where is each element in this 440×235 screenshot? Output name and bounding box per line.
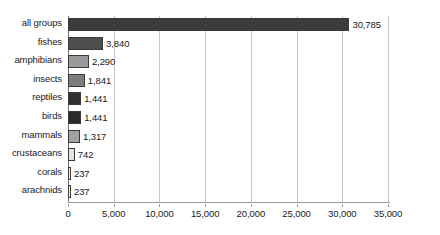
bar-row: 2,290 [68, 53, 388, 72]
x-tick-label: 15,000 [191, 208, 219, 219]
bar [68, 167, 71, 180]
bar-value-label: 742 [78, 148, 94, 161]
x-axis-tick-labels: 05,00010,00015,00020,00025,00030,00035,0… [0, 204, 440, 222]
plot-area: 30,7853,8402,2901,8411,4411,4411,3177422… [68, 16, 388, 202]
bar-value-label: 1,441 [84, 111, 107, 124]
x-tick-mark [342, 204, 343, 207]
category-label: arachnids [0, 185, 62, 195]
bar-value-label: 1,317 [83, 130, 106, 143]
bar-value-label: 2,290 [92, 55, 115, 68]
x-tick-mark [114, 204, 115, 207]
x-tick-label: 20,000 [237, 208, 265, 219]
x-tick-mark [205, 204, 206, 207]
x-tick-label: 10,000 [145, 208, 173, 219]
bar-row: 742 [68, 146, 388, 165]
bar-row: 1,441 [68, 90, 388, 109]
x-tick-mark [297, 204, 298, 207]
bar-value-label: 1,841 [88, 74, 111, 87]
category-label: reptiles [0, 92, 62, 102]
category-axis-labels: all groupsfishesamphibiansinsectsreptile… [0, 16, 62, 202]
bar-row: 1,317 [68, 128, 388, 147]
category-label: mammals [0, 130, 62, 140]
category-label: insects [0, 74, 62, 84]
bar [68, 111, 81, 124]
bar-row: 30,785 [68, 16, 388, 35]
bar-row: 3,840 [68, 35, 388, 54]
x-tick-label: 30,000 [328, 208, 356, 219]
bar-value-label: 1,441 [84, 92, 107, 105]
x-tick-label: 35,000 [374, 208, 402, 219]
bar [68, 130, 80, 143]
bar-row: 1,841 [68, 72, 388, 91]
bar-value-label: 3,840 [106, 37, 129, 50]
bar [68, 185, 71, 198]
x-tick-mark [68, 204, 69, 207]
bar-row: 237 [68, 165, 388, 184]
category-label: all groups [0, 18, 62, 28]
category-label: corals [0, 167, 62, 177]
bar-row: 237 [68, 183, 388, 202]
category-label: amphibians [0, 55, 62, 65]
bar [68, 74, 85, 87]
x-tick-mark [388, 204, 389, 207]
x-tick-mark [251, 204, 252, 207]
x-tick-label: 0 [65, 208, 70, 219]
bar [68, 37, 103, 50]
x-tick-label: 5,000 [102, 208, 125, 219]
bar-chart: ∙∙ ∙∙∙ all groupsfishesamphibiansinsects… [0, 0, 440, 235]
category-label: fishes [0, 37, 62, 47]
x-tick-mark [159, 204, 160, 207]
bar [68, 92, 81, 105]
cropped-header-remnant: ∙∙ ∙∙∙ [138, 0, 208, 7]
x-tick-label: 25,000 [282, 208, 310, 219]
bar-value-label: 30,785 [352, 18, 380, 31]
x-axis-baseline [68, 202, 390, 203]
bar-value-label: 237 [74, 167, 90, 180]
bar [68, 18, 349, 31]
bar-row: 1,441 [68, 109, 388, 128]
category-label: crustaceans [0, 148, 62, 158]
bar [68, 55, 89, 68]
category-label: birds [0, 111, 62, 121]
bar [68, 148, 75, 161]
bar-value-label: 237 [74, 185, 90, 198]
gridline [388, 16, 389, 202]
